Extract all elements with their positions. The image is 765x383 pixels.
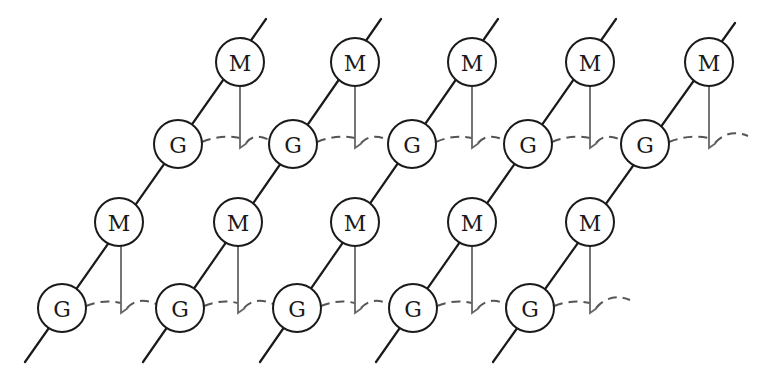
- dashed-arc-segment: [554, 302, 590, 306]
- g-node: G: [389, 284, 437, 332]
- dashed-arc-segment: [436, 137, 472, 142]
- m-node: M: [685, 38, 733, 86]
- g-node: G: [621, 120, 669, 168]
- dashed-arc-segment: [361, 137, 388, 143]
- dashed-arc-segment: [478, 301, 506, 308]
- m-node: M: [448, 38, 496, 86]
- dashed-arc-segment: [596, 137, 621, 143]
- node-label: G: [404, 297, 422, 322]
- dashed-arc-segment: [596, 297, 630, 308]
- m-node: M: [216, 38, 264, 86]
- m-to-g-link: [590, 86, 597, 148]
- gm-chain-diagram: GMGMGMGMGMGMGMGMGMGM: [0, 0, 765, 383]
- m-to-g-link: [709, 86, 716, 148]
- g-node: G: [156, 284, 204, 332]
- g-node: G: [273, 284, 321, 332]
- dashed-arc-segment: [321, 302, 355, 306]
- node-label: M: [579, 211, 602, 236]
- m-to-g-link: [238, 246, 245, 313]
- node-label: G: [169, 133, 187, 158]
- m-to-g-link: [472, 86, 479, 148]
- m-node: M: [331, 38, 379, 86]
- dashed-arc-segment: [437, 302, 472, 306]
- node-label: M: [461, 51, 484, 76]
- m-node: M: [566, 38, 614, 86]
- m-node: M: [331, 198, 379, 246]
- node-label: M: [229, 51, 252, 76]
- node-label: G: [171, 297, 189, 322]
- node-label: M: [461, 211, 484, 236]
- dashed-arc-segment: [669, 137, 709, 142]
- node-label: M: [344, 211, 367, 236]
- dashed-arc-segment: [317, 137, 355, 142]
- m-to-g-link: [355, 86, 362, 148]
- m-to-g-link: [240, 86, 247, 148]
- dashed-arc-segment: [202, 137, 240, 142]
- diagonal-chains: [25, 19, 735, 362]
- dashed-arc-segment: [127, 301, 156, 308]
- m-node: M: [214, 198, 262, 246]
- g-node: G: [154, 120, 202, 168]
- node-label: M: [108, 211, 131, 236]
- dashed-arc-segment: [715, 133, 748, 143]
- node-label: G: [284, 133, 302, 158]
- g-node: G: [388, 120, 436, 168]
- m-to-g-link: [590, 246, 597, 313]
- dashed-arc-segment: [552, 137, 590, 142]
- node-label: G: [53, 297, 71, 322]
- m-to-g-link: [355, 246, 362, 313]
- m-to-g-link: [121, 246, 128, 313]
- g-node: G: [504, 120, 552, 168]
- node-label: G: [519, 133, 537, 158]
- g-node: G: [38, 284, 86, 332]
- dashed-arc-segment: [478, 137, 504, 143]
- node-label: G: [288, 297, 306, 322]
- dashed-arc-segment: [246, 137, 269, 143]
- dashed-arc-segment: [244, 301, 273, 308]
- m-to-g-link: [472, 246, 479, 313]
- g-node: G: [269, 120, 317, 168]
- node-label: G: [521, 297, 539, 322]
- m-node: M: [566, 198, 614, 246]
- node-label: G: [403, 133, 421, 158]
- dashed-arc-segment: [204, 302, 238, 306]
- g-node: G: [506, 284, 554, 332]
- node-label: M: [579, 51, 602, 76]
- node-label: G: [636, 133, 654, 158]
- node-label: M: [227, 211, 250, 236]
- node-label: M: [698, 51, 721, 76]
- m-node: M: [448, 198, 496, 246]
- dashed-arc-segment: [361, 301, 389, 308]
- m-node: M: [95, 198, 143, 246]
- node-label: M: [344, 51, 367, 76]
- dashed-arc-segment: [86, 302, 121, 306]
- nodes: GMGMGMGMGMGMGMGMGMGM: [38, 38, 733, 332]
